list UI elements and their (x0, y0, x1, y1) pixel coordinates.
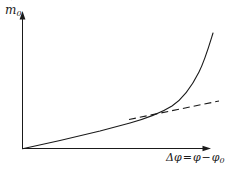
x-axis-label-phi-3: φ (212, 151, 220, 164)
plot-area (0, 0, 240, 171)
mass-flow-curve (23, 33, 214, 149)
linear-asymptote-dashed-line (129, 101, 219, 120)
x-axis-label-subscript: 0 (220, 156, 225, 165)
x-axis-label-phi-1: φ (174, 151, 182, 164)
x-axis-label-equals: = (182, 151, 193, 164)
figure-container: m˙0 Δφ=φ−φ0 (0, 0, 240, 171)
y-axis (20, 11, 26, 149)
x-axis-label: Δφ=φ−φ0 (166, 152, 225, 163)
x-axis-label-phi-2: φ (193, 151, 201, 164)
x-axis-label-minus: − (201, 151, 212, 164)
y-axis-label-subscript: 0 (16, 9, 21, 18)
y-axis-label: m˙0 (5, 4, 21, 16)
y-axis-label-overdot-icon: ˙ (9, 0, 14, 8)
y-axis-label-symbol: m˙ (5, 4, 16, 16)
x-axis-label-delta: Δ (166, 151, 174, 164)
